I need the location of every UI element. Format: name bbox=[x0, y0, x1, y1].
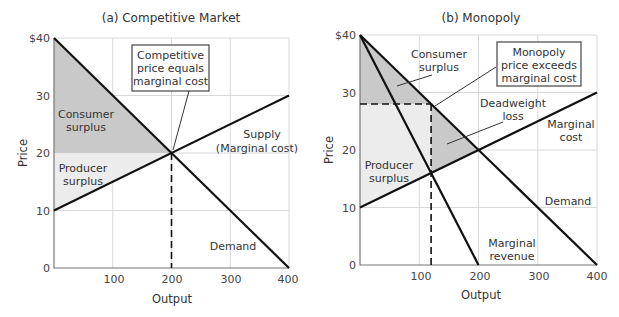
y-tick-40: $40 bbox=[29, 32, 50, 45]
producer-surplus-label-line1: Producer bbox=[365, 159, 414, 172]
chart-title: (b) Monopoly bbox=[442, 11, 521, 25]
producer-surplus-region bbox=[360, 104, 431, 208]
marginal-cost-label-line1: Marginal bbox=[547, 118, 594, 131]
x-axis-label: Output bbox=[461, 288, 501, 302]
y-tick-0: 0 bbox=[43, 262, 50, 275]
producer-surplus-label-line1: Producer bbox=[59, 162, 108, 175]
y-axis-label: Price bbox=[16, 139, 30, 167]
deadweight-loss-label-line2: loss bbox=[502, 110, 524, 123]
producer-surplus-label-line2: surplus bbox=[369, 172, 409, 185]
consumer-surplus-label-line1: Consumer bbox=[58, 108, 115, 121]
x-axis-label: Output bbox=[152, 292, 192, 306]
chart-competitive-market: (a) Competitive Market $40 30 20 10 0 10… bbox=[16, 11, 299, 306]
y-tick-10: 10 bbox=[342, 202, 356, 215]
marginal-revenue-label-line1: Marginal bbox=[488, 237, 535, 250]
supply-label-line1: Supply bbox=[243, 128, 281, 141]
producer-surplus-label-line2: surplus bbox=[63, 175, 103, 188]
y-tick-10: 10 bbox=[36, 205, 50, 218]
chart-monopoly: (b) Monopoly $40 30 20 10 0 bbox=[322, 11, 608, 302]
deadweight-loss-label-line1: Deadweight bbox=[480, 97, 547, 110]
demand-label: Demand bbox=[210, 240, 257, 253]
y-tick-30: 30 bbox=[36, 90, 50, 103]
y-tick-20: 20 bbox=[36, 147, 50, 160]
y-tick-20: 20 bbox=[342, 144, 356, 157]
y-tick-0: 0 bbox=[349, 259, 356, 272]
chart-title: (a) Competitive Market bbox=[102, 11, 241, 25]
y-tick-40: $40 bbox=[335, 29, 356, 42]
x-tick-100: 100 bbox=[411, 270, 432, 283]
callout-text-line2: price equals bbox=[137, 62, 204, 75]
x-tick-400: 400 bbox=[278, 273, 299, 286]
y-axis-label: Price bbox=[322, 136, 336, 164]
consumer-surplus-label-line2: surplus bbox=[66, 121, 106, 134]
x-tick-200: 200 bbox=[470, 270, 491, 283]
supply-label-line2: (Marginal cost) bbox=[216, 142, 298, 155]
x-tick-200: 200 bbox=[162, 273, 183, 286]
callout-text-line3: marginal cost bbox=[502, 72, 578, 85]
consumer-surplus-label-line1: Consumer bbox=[411, 48, 468, 61]
y-tick-30: 30 bbox=[342, 87, 356, 100]
x-tick-100: 100 bbox=[104, 273, 125, 286]
callout-text-line1: Competitive bbox=[137, 49, 204, 62]
callout-text-line1: Monopoly bbox=[512, 46, 566, 59]
marginal-revenue-label-line2: revenue bbox=[489, 250, 534, 263]
figure: (a) Competitive Market $40 30 20 10 0 10… bbox=[0, 0, 619, 317]
x-tick-300: 300 bbox=[221, 273, 242, 286]
demand-label: Demand bbox=[545, 195, 592, 208]
consumer-surplus-label-line2: surplus bbox=[419, 61, 459, 74]
marginal-cost-label-line2: cost bbox=[560, 131, 584, 144]
x-tick-400: 400 bbox=[587, 270, 608, 283]
callout-text-line3: marginal cost bbox=[133, 75, 209, 88]
callout-leader bbox=[173, 91, 189, 150]
x-tick-300: 300 bbox=[529, 270, 550, 283]
callout-text-line2: price exceeds bbox=[501, 59, 577, 72]
